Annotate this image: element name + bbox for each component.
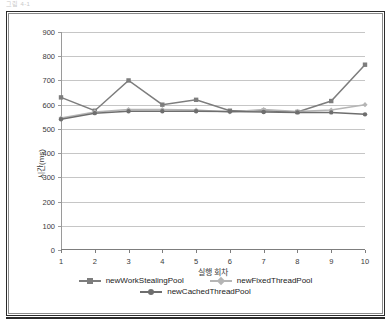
x-tick-mark [162,250,163,253]
data-point [228,109,232,113]
y-tick-label: 700 [17,76,61,85]
legend-row-2: newCachedThreadPool [140,287,251,296]
data-point [194,98,198,102]
x-tick-mark [230,250,231,253]
y-tick-label: 100 [17,221,61,230]
y-tick-label: 0 [17,246,61,255]
legend-item-newCachedThreadPool[interactable]: newCachedThreadPool [140,287,251,296]
legend-item-newWorkStealingPool[interactable]: newWorkStealingPool [79,276,184,285]
x-tick-label: 1 [59,257,63,266]
data-point [329,110,333,114]
chart-screenshot: 그림 4-1 시간(ms) 실행 회차 01002003004005006007… [0,0,391,322]
legend-label: newCachedThreadPool [167,287,251,296]
x-tick-mark [365,250,366,253]
legend-label: newFixedThreadPool [237,276,313,285]
bottom-rule [6,317,385,319]
x-tick-label: 4 [160,257,164,266]
data-point [59,95,63,99]
chart-figure-frame: 시간(ms) 실행 회차 010020030040050060070080090… [6,11,385,316]
legend-row-1: newWorkStealingPool newFixedThreadPool [79,276,313,285]
x-tick-label: 9 [329,257,333,266]
plot-area: 0100200300400500600700800900 12345678910 [61,32,365,250]
data-point [261,110,265,114]
y-tick-label: 900 [17,28,61,37]
legend-marker-icon [140,287,162,296]
data-point [160,102,164,106]
data-point [329,99,333,103]
x-tick-label: 6 [228,257,232,266]
x-tick-label: 2 [93,257,97,266]
y-tick-label: 500 [17,124,61,133]
y-tick-label: 800 [17,52,61,61]
data-point [362,102,367,107]
x-tick-label: 8 [295,257,299,266]
x-tick-label: 3 [126,257,130,266]
chart-legend: newWorkStealingPool newFixedThreadPool [9,276,382,296]
x-tick-label: 7 [262,257,266,266]
series-line [61,111,365,119]
y-tick-label: 200 [17,197,61,206]
data-point [59,117,63,121]
x-tick-mark [61,250,62,253]
y-tick-label: 400 [17,149,61,158]
series-layer [61,32,365,250]
x-tick-mark [129,250,130,253]
x-tick-mark [196,250,197,253]
series-line [61,65,365,112]
legend-marker-icon [79,276,101,285]
x-tick-label: 10 [361,257,369,266]
data-point [160,109,164,113]
legend-label: newWorkStealingPool [106,276,184,285]
chart-figure-inner: 시간(ms) 실행 회차 010020030040050060070080090… [8,13,383,314]
data-point [194,109,198,113]
x-tick-mark [331,250,332,253]
series-newWorkStealingPool [59,63,367,115]
figure-caption: 그림 4-1 [6,0,126,9]
legend-marker-icon [210,276,232,285]
data-point [363,63,367,67]
y-tick-label: 300 [17,173,61,182]
data-point [126,78,130,82]
y-tick-label: 600 [17,100,61,109]
data-point [295,110,299,114]
x-tick-mark [95,250,96,253]
x-tick-mark [297,250,298,253]
data-point [126,109,130,113]
x-tick-mark [264,250,265,253]
x-tick-label: 5 [194,257,198,266]
legend-item-newFixedThreadPool[interactable]: newFixedThreadPool [210,276,313,285]
data-point [93,111,97,115]
data-point [363,112,367,116]
